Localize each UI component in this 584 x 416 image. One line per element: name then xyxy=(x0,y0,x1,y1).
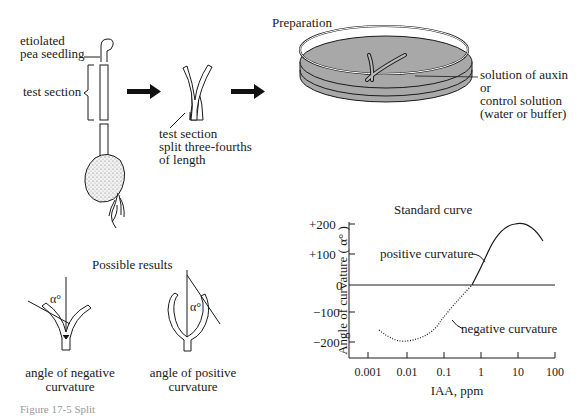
negative-curvature-series xyxy=(379,285,472,341)
chart-axes xyxy=(349,222,555,358)
positive-curvature-series xyxy=(472,223,543,285)
